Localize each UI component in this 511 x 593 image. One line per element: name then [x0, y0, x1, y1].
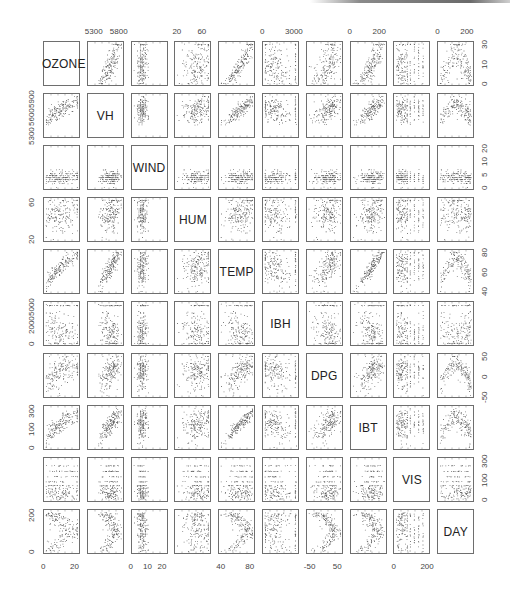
top-axis-tick-label: 200 [373, 27, 386, 36]
variable-label: OZONE [42, 42, 77, 85]
top-axis-tick-label: 200 [460, 27, 473, 36]
scatter-panel-ozone-vs-hum [174, 41, 211, 86]
scatter-panel-vh-vs-temp [218, 93, 255, 138]
scatter-panel-ibh-vs-ozone [43, 301, 80, 346]
left-axis-tick-label: 20 [27, 235, 36, 244]
scatter-panel-vis-vs-dpg [306, 457, 343, 502]
left-axis-tick-label: 5900 [27, 90, 36, 108]
diagonal-label-panel-dpg: DPG [306, 353, 343, 398]
diagonal-label-panel-hum: HUM [174, 197, 211, 242]
right-axis-tick-label: 50 [480, 352, 489, 361]
diagonal-label-panel-day: DAY [437, 509, 474, 554]
scatter-panel-ozone-vs-vh [87, 41, 124, 86]
top-axis-tick-label: 0 [260, 27, 264, 36]
scatter-panel-vis-vs-vh [87, 457, 124, 502]
diagonal-label-panel-vh: VH [87, 93, 124, 138]
scatter-panel-day-vs-vis [393, 509, 430, 554]
scatter-panel-temp-vs-dpg [306, 249, 343, 294]
scatter-panel-vis-vs-temp [218, 457, 255, 502]
bottom-axis-tick-label: -50 [304, 562, 316, 571]
diagonal-label-panel-ozone: OZONE [43, 41, 80, 86]
left-axis-tick-label: 5000 [27, 298, 36, 316]
diagonal-label-panel-temp: TEMP [218, 249, 255, 294]
right-axis-tick-label: 10 [480, 60, 489, 69]
scatter-panel-wind-vs-day [437, 145, 474, 190]
scatter-panel-hum-vs-dpg [306, 197, 343, 242]
scatter-panel-day-vs-dpg [306, 509, 343, 554]
scatter-panel-hum-vs-day [437, 197, 474, 242]
diagonal-label-panel-ibt: IBT [350, 405, 387, 450]
scatter-panel-dpg-vs-ibh [262, 353, 299, 398]
variable-label: WIND [132, 146, 167, 189]
right-axis-tick-label: 60 [480, 268, 489, 277]
variable-label: DAY [438, 510, 473, 553]
scatter-panel-ozone-vs-day [437, 41, 474, 86]
scatter-panel-wind-vs-dpg [306, 145, 343, 190]
scatter-panel-dpg-vs-day [437, 353, 474, 398]
scatter-panel-day-vs-hum [174, 509, 211, 554]
diagonal-label-panel-vis: VIS [393, 457, 430, 502]
top-axis-tick-label: 20 [172, 27, 181, 36]
scatter-panel-vis-vs-wind [131, 457, 168, 502]
scatter-panel-temp-vs-ibt [350, 249, 387, 294]
scatter-panel-day-vs-temp [218, 509, 255, 554]
scatter-panel-vh-vs-day [437, 93, 474, 138]
scatter-panel-vh-vs-hum [174, 93, 211, 138]
scatter-panel-ozone-vs-dpg [306, 41, 343, 86]
scatter-panel-wind-vs-temp [218, 145, 255, 190]
right-axis-tick-label: 80 [480, 248, 489, 257]
scatter-panel-ibh-vs-hum [174, 301, 211, 346]
scatter-panel-day-vs-vh [87, 509, 124, 554]
bottom-axis-tick-label: 20 [158, 562, 167, 571]
scatter-panel-ibh-vs-vh [87, 301, 124, 346]
right-axis-tick-label: 0 [480, 498, 489, 502]
diagonal-label-panel-ibh: IBH [262, 301, 299, 346]
scatter-panel-ibh-vs-vis [393, 301, 430, 346]
scatter-panel-vh-vs-vis [393, 93, 430, 138]
bottom-axis-tick-label: 20 [70, 562, 79, 571]
bottom-axis-tick-label: 0 [391, 562, 395, 571]
scatter-panel-dpg-vs-ibt [350, 353, 387, 398]
scatter-panel-dpg-vs-wind [131, 353, 168, 398]
scatter-panel-dpg-vs-hum [174, 353, 211, 398]
scatter-panel-ozone-vs-wind [131, 41, 168, 86]
scatter-panel-ibt-vs-dpg [306, 405, 343, 450]
scatter-panel-temp-vs-vh [87, 249, 124, 294]
scatter-panel-wind-vs-vh [87, 145, 124, 190]
left-axis-tick-label: 5300 [27, 127, 36, 145]
top-axis-tick-label: 5800 [110, 27, 128, 36]
right-axis-tick-label: 0 [480, 186, 489, 190]
right-axis-tick-label: 40 [480, 287, 489, 296]
scatter-panel-temp-vs-day [437, 249, 474, 294]
scatter-panel-hum-vs-ozone [43, 197, 80, 242]
scatter-panel-vh-vs-ibh [262, 93, 299, 138]
top-axis-tick-label: 0 [348, 27, 352, 36]
scatter-panel-vh-vs-ibt [350, 93, 387, 138]
scatter-panel-ozone-vs-vis [393, 41, 430, 86]
scatter-panel-ibt-vs-hum [174, 405, 211, 450]
scatter-panel-ozone-vs-temp [218, 41, 255, 86]
left-axis-tick-label: 60 [27, 198, 36, 207]
right-axis-tick-label: 300 [480, 454, 489, 467]
scatter-panel-vh-vs-ozone [43, 93, 80, 138]
scatter-panel-ibt-vs-vis [393, 405, 430, 450]
scatter-panel-ibh-vs-day [437, 301, 474, 346]
scatter-panel-ozone-vs-ibt [350, 41, 387, 86]
scatter-panel-temp-vs-wind [131, 249, 168, 294]
variable-label: DPG [307, 354, 342, 397]
variable-label: IBH [263, 302, 298, 345]
top-axis-tick-label: 5300 [85, 27, 103, 36]
scatter-panel-wind-vs-ibh [262, 145, 299, 190]
scatter-panel-vis-vs-ibt [350, 457, 387, 502]
left-axis-tick-label: 0 [27, 342, 36, 346]
scatter-panel-wind-vs-vis [393, 145, 430, 190]
scatter-panel-temp-vs-ozone [43, 249, 80, 294]
scatter-panel-day-vs-ozone [43, 509, 80, 554]
scatterplot-matrix: OZONEVHWINDHUMTEMPIBHDPGIBTVISDAY5300580… [0, 0, 511, 593]
scatter-panel-temp-vs-hum [174, 249, 211, 294]
scatter-panel-vis-vs-day [437, 457, 474, 502]
scatter-panel-ibt-vs-ibh [262, 405, 299, 450]
bottom-axis-tick-label: 200 [420, 562, 433, 571]
scatter-panel-ibh-vs-temp [218, 301, 255, 346]
scatter-panel-ibt-vs-vh [87, 405, 124, 450]
